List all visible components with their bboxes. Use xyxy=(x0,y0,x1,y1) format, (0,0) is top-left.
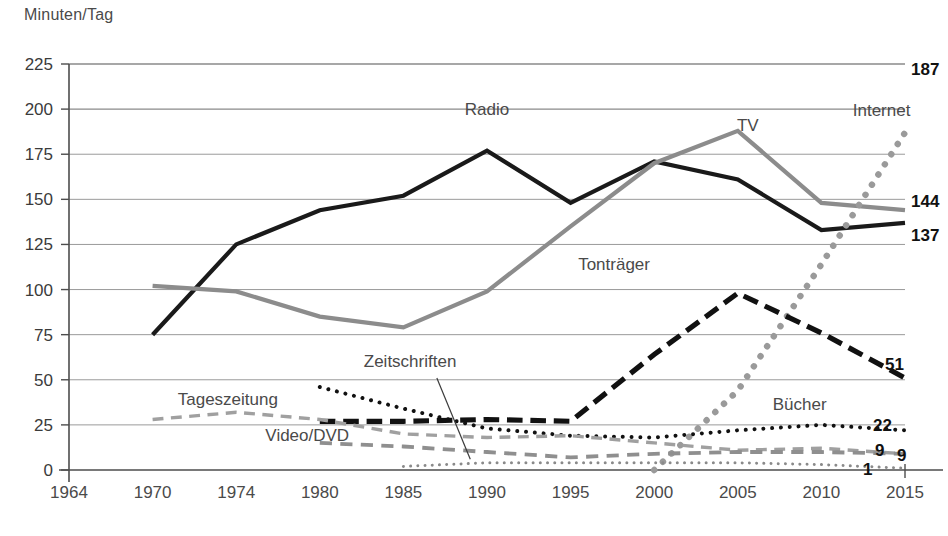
end-value-internet: 187 xyxy=(911,60,939,79)
chart-canvas: 0255075100125150175200225196419701974198… xyxy=(0,0,948,536)
x-axis-tick-label: 1995 xyxy=(552,483,590,502)
x-axis-tick-label: 1985 xyxy=(384,483,422,502)
y-axis-tick-label: 75 xyxy=(34,326,53,345)
end-value-b-cher: 22 xyxy=(873,416,892,435)
line-chart: 0255075100125150175200225196419701974198… xyxy=(0,0,948,536)
x-axis-tick-label: 2005 xyxy=(719,483,757,502)
series-line-zeitschriften xyxy=(320,443,905,458)
series-label-internet: Internet xyxy=(853,101,911,120)
end-value-tv: 144 xyxy=(911,192,940,211)
series-label-zeitschriften: Zeitschriften xyxy=(364,352,457,371)
y-axis-tick-label: 200 xyxy=(25,100,53,119)
x-axis-tick-label: 2000 xyxy=(635,483,673,502)
end-value-zeitschriften: 9 xyxy=(897,446,906,465)
x-axis-tick-label: 1970 xyxy=(134,483,172,502)
series-line-internet xyxy=(654,133,905,470)
series-group xyxy=(153,131,905,470)
axes xyxy=(59,64,943,482)
y-axis-tick-label: 0 xyxy=(44,461,53,480)
series-label-tontr-ger: Tonträger xyxy=(578,255,650,274)
end-value-labels: 1371441875122991 xyxy=(863,60,940,480)
y-axis-tick-label: 225 xyxy=(25,55,53,74)
y-axis-tick-label: 125 xyxy=(25,235,53,254)
series-label-tageszeitung: Tageszeitung xyxy=(178,390,278,409)
end-value-video-dvd: 1 xyxy=(863,460,872,479)
x-axis-tick-label: 1980 xyxy=(301,483,339,502)
end-value-radio: 137 xyxy=(911,226,939,245)
x-axis-tick-label: 2010 xyxy=(802,483,840,502)
y-axis-tick-label: 25 xyxy=(34,416,53,435)
series-label-radio: Radio xyxy=(465,100,509,119)
series-label-video-dvd: Video/DVD xyxy=(265,426,349,445)
x-axis-tick-label: 2015 xyxy=(886,483,924,502)
y-axis-tick-label: 50 xyxy=(34,371,53,390)
y-axis-tick-label: 175 xyxy=(25,145,53,164)
series-label-b-cher: Bücher xyxy=(773,395,827,414)
series-label-tv: TV xyxy=(737,116,759,135)
end-value-tageszeitung: 9 xyxy=(875,441,884,460)
end-value-tontr-ger: 51 xyxy=(885,355,904,374)
x-axis-tick-label: 1974 xyxy=(217,483,255,502)
chart-page: Minuten/Tag 0255075100125150175200225196… xyxy=(0,0,948,536)
x-axis-tick-label: 1990 xyxy=(468,483,506,502)
series-line-tv xyxy=(153,131,905,328)
x-axis-tick-label: 1964 xyxy=(50,483,88,502)
y-axis-tick-label: 100 xyxy=(25,281,53,300)
y-axis-tick-label: 150 xyxy=(25,190,53,209)
series-labels: RadioTVInternetTonträgerBücherTageszeitu… xyxy=(178,100,911,446)
gridlines: 0255075100125150175200225 xyxy=(25,55,905,480)
